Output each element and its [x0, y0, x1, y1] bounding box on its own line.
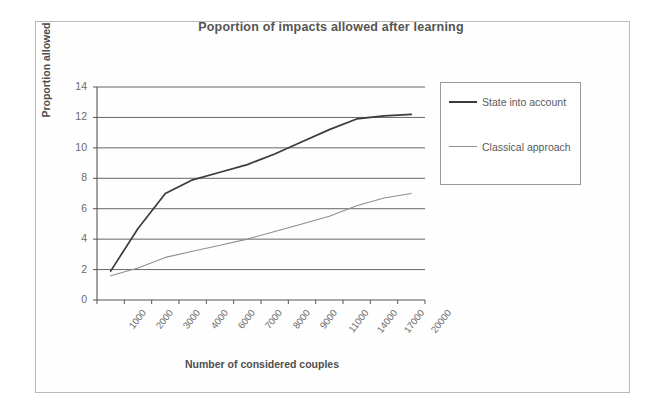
y-axis-tick-label: 12: [63, 111, 87, 122]
y-axis-tick-label: 8: [63, 172, 87, 183]
chart-title: Poportion of impacts allowed after learn…: [0, 20, 662, 34]
legend-line-swatch-icon: [449, 146, 477, 147]
y-axis-title: Proportion allowed: [40, 5, 52, 135]
legend-item-label: State into account: [482, 95, 566, 109]
figure-frame: [35, 21, 630, 393]
legend-line-swatch-icon: [449, 101, 477, 103]
y-axis-tick-label: 4: [63, 233, 87, 244]
legend-item-state-into-account[interactable]: State into account: [449, 95, 566, 109]
y-axis-tick-label: 6: [63, 203, 87, 214]
y-axis-tick-label: 2: [63, 264, 87, 275]
legend-item-classical-approach[interactable]: Classical approach: [449, 140, 571, 154]
y-axis-tick-label: 0: [63, 294, 87, 305]
x-axis-title: Number of considered couples: [97, 358, 427, 370]
y-axis-tick-label: 10: [63, 142, 87, 153]
legend: State into account Classical approach: [440, 82, 581, 185]
y-axis-tick-label: 14: [63, 81, 87, 92]
legend-item-label: Classical approach: [482, 140, 571, 154]
